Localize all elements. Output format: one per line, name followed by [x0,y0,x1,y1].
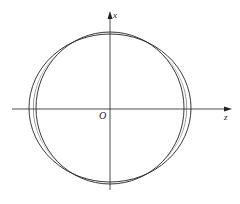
vertical-axis-arrow-icon [108,11,113,19]
vertical-axis-label: x [113,11,117,20]
origin-label: O [99,111,106,121]
horizontal-axis-label: z [224,113,228,122]
horizontal-axis-arrow-icon [224,107,232,112]
diagram: x z O [0,0,240,204]
diagram-canvas [0,0,240,204]
